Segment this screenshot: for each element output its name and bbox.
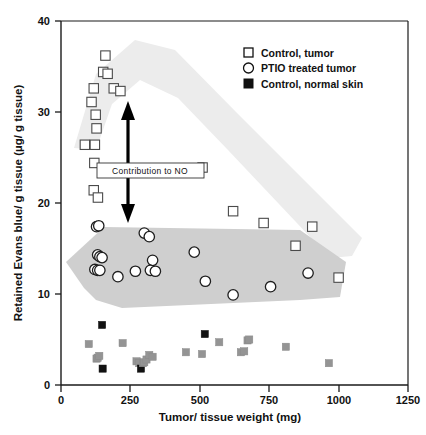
datapoint-control-tumor	[87, 97, 96, 106]
datapoint-ptio-treated-tumor	[303, 268, 313, 278]
chart-legend: Control, tumor PTIO treated tumor Contro…	[244, 47, 364, 90]
y-ticklabel-30: 30	[38, 106, 50, 118]
datapoint-control-tumor	[101, 51, 110, 60]
datapoint-ptio-treated-tumor	[200, 276, 210, 286]
legend-marker-filled-square	[244, 79, 253, 88]
datapoint-control-normal-skin	[246, 336, 253, 343]
datapoint-control-normal-skin	[119, 340, 126, 347]
datapoint-control-tumor	[334, 273, 343, 282]
datapoint-control-tumor	[89, 84, 98, 93]
arrow-head-down	[121, 204, 135, 223]
arrow-head-up	[121, 101, 135, 120]
datapoint-control-tumor	[90, 140, 99, 149]
ptio-tumor-trend-band	[66, 227, 346, 308]
datapoint-control-tumor	[80, 140, 89, 149]
datapoint-control-tumor	[93, 193, 102, 202]
datapoint-control-normal-skin	[201, 330, 208, 337]
datapoint-ptio-treated-tumor	[189, 247, 199, 257]
datapoint-ptio-treated-tumor	[228, 290, 238, 300]
datapoint-control-tumor	[91, 110, 100, 119]
y-axis-ticklabels: 0 10 20 30 40	[38, 15, 50, 391]
datapoint-control-normal-skin	[282, 343, 289, 350]
y-ticklabel-0: 0	[44, 379, 50, 391]
datapoint-ptio-treated-tumor	[97, 252, 107, 262]
x-axis-ticks	[61, 385, 408, 392]
legend-label-control-tumor: Control, tumor	[261, 47, 334, 59]
datapoint-control-normal-skin	[241, 348, 248, 355]
datapoint-control-normal-skin	[85, 340, 92, 347]
series-control-normal-skin	[85, 321, 332, 372]
datapoint-control-tumor	[228, 206, 237, 215]
datapoint-control-normal-skin	[98, 321, 105, 328]
contribution-to-no-arrow	[121, 101, 135, 223]
datapoint-control-normal-skin	[182, 349, 189, 356]
x-ticklabel-0: 0	[58, 394, 64, 406]
datapoint-control-tumor	[92, 124, 101, 133]
legend-marker-open-circle	[244, 63, 254, 73]
datapoint-ptio-treated-tumor	[94, 221, 104, 231]
datapoint-control-normal-skin	[216, 339, 223, 346]
legend-label-ptio-treated-tumor: PTIO treated tumor	[261, 62, 356, 74]
datapoint-ptio-treated-tumor	[265, 282, 275, 292]
x-ticklabel-500: 500	[191, 394, 209, 406]
x-axis-ticklabels: 0 250 500 750 1000 1250	[58, 394, 420, 406]
x-ticklabel-750: 750	[260, 394, 278, 406]
datapoint-control-normal-skin	[325, 360, 332, 367]
datapoint-control-tumor	[308, 222, 317, 231]
datapoint-control-tumor	[291, 241, 300, 250]
chart-figure: 0 10 20 30 40 0 250 500 750 1000 1250 Tu…	[0, 0, 426, 435]
datapoint-control-normal-skin	[198, 350, 205, 357]
datapoint-ptio-treated-tumor	[95, 265, 105, 275]
datapoint-ptio-treated-tumor	[150, 266, 160, 276]
x-axis-title: Tumor/ tissue weight (mg)	[159, 411, 301, 423]
y-axis-ticks	[55, 21, 61, 385]
y-ticklabel-40: 40	[38, 15, 50, 27]
x-ticklabel-1250: 1250	[396, 394, 420, 406]
scatter-plot: 0 10 20 30 40 0 250 500 750 1000 1250 Tu…	[0, 0, 426, 435]
datapoint-control-tumor	[103, 69, 112, 78]
datapoint-ptio-treated-tumor	[113, 272, 123, 282]
datapoint-control-normal-skin	[96, 352, 103, 359]
y-ticklabel-10: 10	[38, 288, 50, 300]
datapoint-ptio-treated-tumor	[130, 266, 140, 276]
x-ticklabel-1000: 1000	[327, 394, 351, 406]
annotation-label: Contribution to NO	[112, 166, 188, 176]
x-ticklabel-250: 250	[121, 394, 139, 406]
datapoint-ptio-treated-tumor	[144, 231, 154, 241]
legend-marker-open-square	[244, 48, 253, 57]
contribution-to-no-label: Contribution to NO	[97, 163, 204, 178]
datapoint-ptio-treated-tumor	[147, 255, 157, 265]
y-axis-title: Retained Evans blue/ g tissue (µg/ g tis…	[12, 84, 24, 321]
datapoint-control-normal-skin	[149, 353, 156, 360]
datapoint-control-tumor	[116, 86, 125, 95]
legend-label-control-normal-skin: Control, normal skin	[261, 78, 363, 90]
y-ticklabel-20: 20	[38, 197, 50, 209]
datapoint-control-normal-skin	[99, 365, 106, 372]
datapoint-control-tumor	[259, 218, 268, 227]
